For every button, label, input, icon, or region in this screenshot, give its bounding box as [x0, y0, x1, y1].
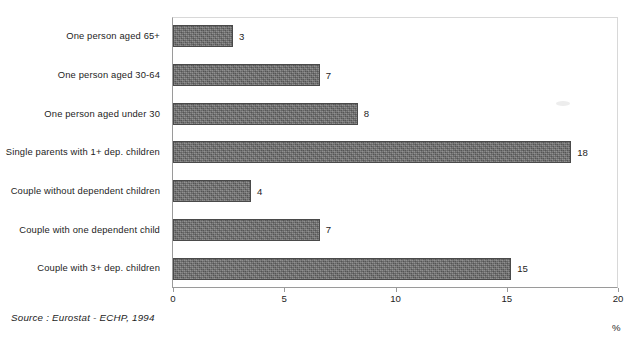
- bar-group: 8: [173, 94, 369, 133]
- category-label: Couple without dependent children: [0, 172, 166, 211]
- bar: [173, 64, 320, 86]
- x-axis-tick-label: 5: [282, 293, 287, 304]
- category-label: Single parents with 1+ dep. children: [0, 133, 166, 172]
- bar-group: 15: [173, 249, 528, 288]
- bar-group: 7: [173, 56, 331, 95]
- bar: [173, 258, 511, 280]
- bar-value-label: 7: [326, 70, 331, 81]
- category-label: One person aged under 30: [0, 94, 166, 133]
- bar-value-label: 8: [364, 108, 369, 119]
- x-axis-tick-mark: [173, 288, 174, 292]
- chart-row: One person aged under 308: [0, 94, 636, 133]
- chart-row: Couple with 3+ dep. children15: [0, 249, 636, 288]
- x-axis-tick-label: 0: [170, 293, 175, 304]
- x-axis-tick-mark: [396, 288, 397, 292]
- bar-group: 4: [173, 172, 262, 211]
- bar-chart-figure: One person aged 65+3One person aged 30-6…: [0, 0, 636, 345]
- bar-group: 18: [173, 133, 588, 172]
- bar-group: 7: [173, 211, 331, 250]
- chart-row: Single parents with 1+ dep. children18: [0, 133, 636, 172]
- chart-row: One person aged 65+3: [0, 17, 636, 56]
- bar: [173, 25, 233, 47]
- bar-rows-container: One person aged 65+3One person aged 30-6…: [0, 17, 636, 288]
- chart-row: Couple without dependent children4: [0, 172, 636, 211]
- x-axis-unit-label: %: [612, 322, 621, 333]
- x-axis-tick-mark: [507, 288, 508, 292]
- category-label: Couple with 3+ dep. children: [0, 249, 166, 288]
- bar-value-label: 18: [577, 147, 588, 158]
- source-note: Source : Eurostat - ECHP, 1994: [11, 312, 155, 323]
- category-label: One person aged 65+: [0, 17, 166, 56]
- bar: [173, 141, 571, 163]
- bar-value-label: 7: [326, 224, 331, 235]
- chart-row: One person aged 30-647: [0, 56, 636, 95]
- x-axis: 05101520: [172, 288, 618, 312]
- bar-group: 3: [173, 17, 244, 56]
- x-axis-tick-label: 20: [613, 293, 624, 304]
- bar-value-label: 4: [257, 186, 262, 197]
- bar-value-label: 3: [239, 31, 244, 42]
- clipped-title-remnant: [150, 0, 410, 3]
- chart-row: Couple with one dependent child7: [0, 211, 636, 250]
- category-label: Couple with one dependent child: [0, 211, 166, 250]
- bar-value-label: 15: [517, 263, 528, 274]
- bar: [173, 180, 251, 202]
- bar: [173, 219, 320, 241]
- category-label: One person aged 30-64: [0, 56, 166, 95]
- x-axis-tick-mark: [618, 288, 619, 292]
- x-axis-tick-label: 10: [390, 293, 401, 304]
- x-axis-tick-mark: [284, 288, 285, 292]
- bar: [173, 103, 358, 125]
- x-axis-tick-label: 15: [501, 293, 512, 304]
